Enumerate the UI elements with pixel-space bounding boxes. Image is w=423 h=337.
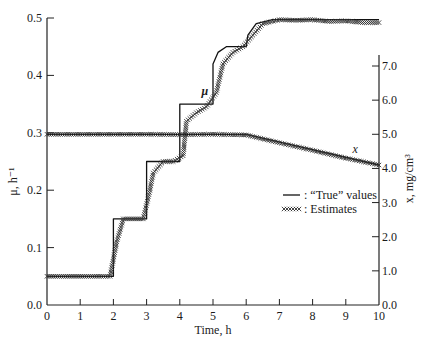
mu_true-series <box>47 20 379 277</box>
x-tick-label: 4 <box>177 309 183 323</box>
legend-true-label: : “True” values <box>304 188 377 202</box>
x-tick-label: 6 <box>243 309 249 323</box>
chart: 0123456789100.00.10.20.30.40.50.01.02.03… <box>0 0 423 337</box>
right-y-tick-label: 6.0 <box>382 93 397 107</box>
right-y-tick-label: 7.0 <box>382 59 397 73</box>
legend: : “True” values: Estimates <box>282 188 377 216</box>
x-axis-title: Time, h <box>195 323 232 337</box>
left-y-tick-label: 0.0 <box>27 298 42 312</box>
data-series <box>45 18 381 279</box>
right-y-tick-label: 4.0 <box>382 161 397 175</box>
x-curve-label: x <box>351 142 358 156</box>
legend-estimates-marker-icon <box>282 207 301 211</box>
x-tick-label: 5 <box>210 309 216 323</box>
left-y-tick-label: 0.2 <box>27 183 42 197</box>
x_true-line <box>47 134 379 165</box>
right-y-tick-label: 5.0 <box>382 127 397 141</box>
x_estimates-series <box>45 132 381 167</box>
left-y-tick-label: 0.4 <box>27 68 42 82</box>
x-tick-label: 0 <box>44 309 50 323</box>
right-y-tick-label: 3.0 <box>382 196 397 210</box>
legend-estimates-label: : Estimates <box>304 202 357 216</box>
right-y-axis-title: x, mg/cm³ <box>402 154 416 203</box>
x-tick-label: 3 <box>144 309 150 323</box>
right-y-tick-label: 2.0 <box>382 230 397 244</box>
left-y-axis-title: μ, h⁻¹ <box>6 167 20 196</box>
mu_estimates-series <box>45 18 381 279</box>
mu_true-line <box>47 20 379 277</box>
left-y-tick-label: 0.1 <box>27 241 42 255</box>
right-y-tick-label: 1.0 <box>382 264 397 278</box>
x_true-series <box>47 134 379 165</box>
left-y-tick-label: 0.5 <box>27 11 42 25</box>
mu-curve-label: μ <box>200 84 208 98</box>
estimate-marker <box>297 207 301 211</box>
left-y-tick-label: 0.3 <box>27 126 42 140</box>
x-tick-label: 8 <box>310 309 316 323</box>
x-tick-label: 1 <box>77 309 83 323</box>
x-tick-label: 9 <box>343 309 349 323</box>
x-tick-label: 2 <box>110 309 116 323</box>
right-y-tick-label: 0.0 <box>382 298 397 312</box>
x-tick-label: 7 <box>276 309 282 323</box>
